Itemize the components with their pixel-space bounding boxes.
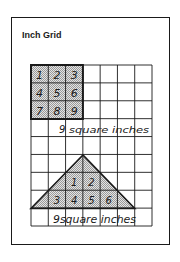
square-caption-number: 9	[59, 124, 65, 135]
triangle-cell-5: 5	[88, 195, 94, 206]
square-cell-4: 4	[36, 87, 43, 100]
square-cell-labels: 1 2 3 4 5 6 7 8 9	[36, 69, 78, 118]
triangle-caption: 9square inches	[53, 214, 136, 225]
square-cell-3: 3	[71, 69, 78, 82]
triangle-cell-6: 6	[106, 195, 112, 206]
triangle-cell-4: 4	[71, 195, 77, 206]
square-caption-text: square inches	[69, 124, 149, 135]
square-cell-8: 8	[53, 105, 60, 118]
square-cell-9: 9	[71, 105, 78, 118]
square-cell-7: 7	[36, 105, 43, 118]
triangle-cell-2: 2	[88, 177, 94, 188]
square-cell-5: 5	[53, 87, 60, 100]
square-cell-1: 1	[36, 69, 43, 82]
inch-grid: 1 2 3 4 5 6 7 8 9 9 square inches 1 2 3 …	[0, 0, 180, 262]
triangle-cell-3: 3	[54, 195, 60, 206]
triangle-cell-1: 1	[71, 177, 77, 188]
square-cell-6: 6	[71, 87, 78, 100]
square-cell-2: 2	[53, 69, 60, 82]
